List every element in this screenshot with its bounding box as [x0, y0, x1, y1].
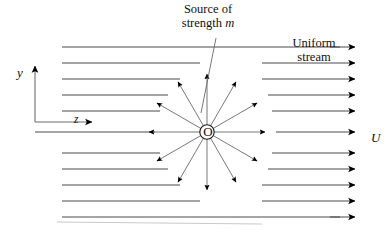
axis-y-label: y [17, 66, 23, 81]
radial-arrow [157, 132, 207, 161]
caption-divider [57, 222, 262, 224]
source-label-line2: strength [182, 16, 225, 30]
source-label-line1: Source of [184, 2, 232, 16]
figure-source-in-uniform-stream: Source ofstrength m Uniformstream y z U … [0, 0, 391, 235]
origin-label: O [201, 125, 215, 140]
streamlines-downstream [262, 47, 355, 217]
uniform-stream-label: Uniformstream [277, 36, 351, 64]
source-strength-symbol: m [225, 16, 234, 30]
source-strength-label: Source ofstrength m [152, 2, 264, 30]
coordinate-axes [35, 66, 92, 122]
source-leader-line [201, 38, 216, 113]
axis-z-label: z [74, 113, 78, 126]
uniform-label-line1: Uniform [292, 36, 335, 50]
radial-arrow [157, 103, 207, 132]
freestream-speed-label: U [371, 131, 380, 146]
uniform-label-line2: stream [297, 50, 330, 64]
